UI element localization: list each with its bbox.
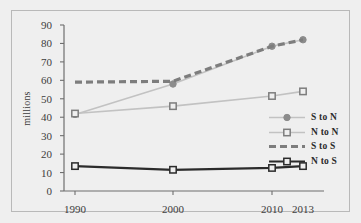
data-point (300, 88, 306, 94)
legend-line-sample (267, 111, 307, 124)
legend-item[interactable]: S to N (267, 111, 355, 124)
x-axis-tick-labels: 1990200020102013 (12, 201, 351, 221)
legend-marker (284, 158, 290, 164)
data-point (170, 103, 176, 109)
series-line (75, 40, 303, 82)
legend-label: S to N (311, 111, 337, 124)
chart-figure-frame: millions 0102030405060708090 19902000201… (11, 10, 350, 212)
series-s-to-s (75, 40, 303, 82)
legend-item[interactable]: N to N (267, 126, 355, 139)
chart-container: millions 0102030405060708090 19902000201… (0, 0, 361, 223)
legend-label: N to N (311, 126, 339, 139)
chart-legend: S to NN to NS to SN to S (267, 111, 355, 169)
legend-item[interactable]: N to S (267, 155, 355, 168)
x-tick-label: 1990 (64, 203, 86, 215)
legend-label: N to S (311, 155, 337, 168)
x-tick-label: 2010 (261, 203, 283, 215)
legend-line-sample (267, 155, 307, 168)
legend-line-sample (267, 140, 307, 153)
legend-label: S to S (311, 140, 335, 153)
legend-item[interactable]: S to S (267, 140, 355, 153)
data-point (170, 167, 176, 173)
legend-marker (284, 114, 290, 120)
data-point (269, 93, 275, 99)
data-point (72, 163, 78, 169)
x-tick-label: 2013 (292, 203, 314, 215)
x-tick-label: 2000 (162, 203, 184, 215)
data-point (72, 110, 78, 116)
legend-marker (284, 129, 290, 135)
legend-line-sample (267, 126, 307, 139)
